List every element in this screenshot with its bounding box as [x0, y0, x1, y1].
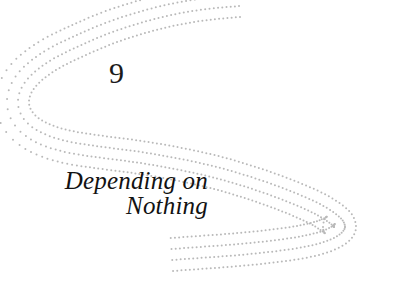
chapter-title: Depending on Nothing — [0, 168, 208, 218]
chapter-title-line-2: Nothing — [0, 193, 208, 218]
ornament-dot-group — [0, 0, 357, 272]
chapter-title-line-1: Depending on — [0, 168, 208, 193]
chapter-opening-page: 9 Depending on Nothing — [0, 0, 417, 285]
chapter-number: 9 — [0, 58, 417, 88]
dotted-s-curve-ornament — [0, 0, 417, 285]
